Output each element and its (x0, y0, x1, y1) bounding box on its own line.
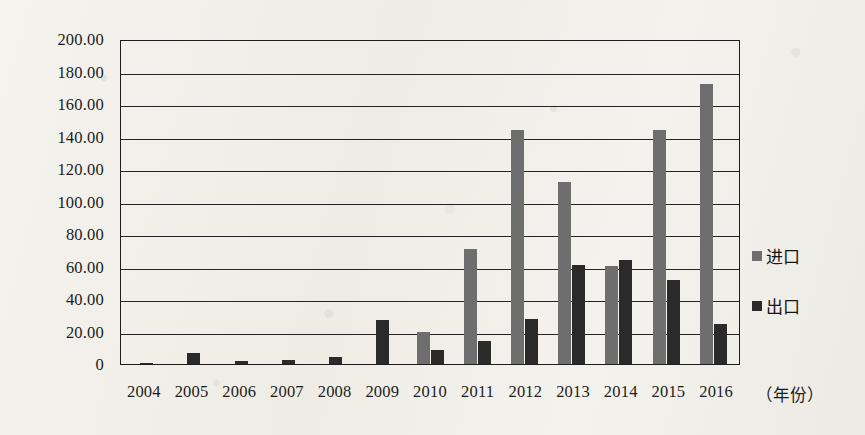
y-axis: 200.00180.00160.00140.00120.00100.0080.0… (0, 0, 112, 435)
bar-export-2006 (235, 361, 248, 364)
bar-group (690, 41, 737, 364)
y-tick-label: 0 (96, 355, 104, 375)
bar-export-2004 (140, 363, 153, 364)
y-tick-label: 180.00 (57, 63, 104, 83)
x-tick-label-2012: 2012 (502, 382, 550, 412)
bar-group (265, 41, 312, 364)
legend-item-export[interactable]: 出口 (752, 293, 800, 318)
y-tick-label: 120.00 (57, 160, 104, 180)
bar-export-2015 (667, 280, 680, 364)
legend-item-import[interactable]: 进口 (752, 243, 800, 268)
y-tick-label: 200.00 (57, 30, 104, 50)
bar-export-2016 (714, 324, 727, 364)
y-tick-label: 140.00 (57, 128, 104, 148)
y-tick-label: 40.00 (66, 290, 104, 310)
legend-swatch-import-icon (752, 251, 762, 261)
x-axis-title: （年份） (756, 382, 824, 406)
bar-export-2005 (187, 353, 200, 364)
y-tick-label: 80.00 (66, 225, 104, 245)
bar-import-2013 (558, 182, 571, 364)
bar-series-layer (121, 41, 739, 364)
bar-group (217, 41, 264, 364)
bar-group (501, 41, 548, 364)
y-tick-label: 60.00 (66, 258, 104, 278)
bar-group (359, 41, 406, 364)
legend-label: 进口 (766, 243, 800, 268)
bar-group (312, 41, 359, 364)
legend-swatch-export-icon (752, 301, 762, 311)
x-tick-label-2016: 2016 (692, 382, 740, 412)
bar-chart: 200.00180.00160.00140.00120.00100.0080.0… (0, 0, 865, 435)
bar-import-2010 (417, 332, 430, 365)
x-tick-label-2013: 2013 (549, 382, 597, 412)
bar-import-2014 (605, 266, 618, 364)
bar-import-2011 (464, 249, 477, 364)
bar-group (548, 41, 595, 364)
bar-export-2011 (478, 341, 491, 364)
x-tick-label-2015: 2015 (645, 382, 693, 412)
x-axis: 2004200520062007200820092010201120122013… (120, 382, 740, 412)
x-tick-label-2009: 2009 (358, 382, 406, 412)
bar-import-2015 (653, 130, 666, 364)
x-tick-label-2010: 2010 (406, 382, 454, 412)
y-tick-label: 160.00 (57, 95, 104, 115)
bar-export-2013 (572, 265, 585, 364)
y-tick-label: 20.00 (66, 323, 104, 343)
bar-group (123, 41, 170, 364)
plot-area (120, 40, 740, 365)
bar-import-2012 (511, 130, 524, 364)
bar-export-2008 (329, 357, 342, 364)
bar-export-2012 (525, 319, 538, 364)
legend-label: 出口 (766, 293, 800, 318)
y-tick-label: 100.00 (57, 193, 104, 213)
x-tick-label-2007: 2007 (263, 382, 311, 412)
x-tick-label-2011: 2011 (454, 382, 502, 412)
bar-group (170, 41, 217, 364)
bar-group (454, 41, 501, 364)
bar-export-2010 (431, 350, 444, 364)
bar-export-2014 (619, 260, 632, 364)
x-tick-label-2006: 2006 (215, 382, 263, 412)
legend: 进口出口 (752, 243, 800, 318)
bar-export-2007 (282, 360, 295, 364)
bar-group (595, 41, 642, 364)
bar-import-2016 (700, 84, 713, 364)
bar-group (406, 41, 453, 364)
x-tick-label-2008: 2008 (311, 382, 359, 412)
bar-export-2009 (376, 320, 389, 364)
x-tick-label-2014: 2014 (597, 382, 645, 412)
bar-group (643, 41, 690, 364)
x-tick-label-2005: 2005 (168, 382, 216, 412)
x-tick-label-2004: 2004 (120, 382, 168, 412)
